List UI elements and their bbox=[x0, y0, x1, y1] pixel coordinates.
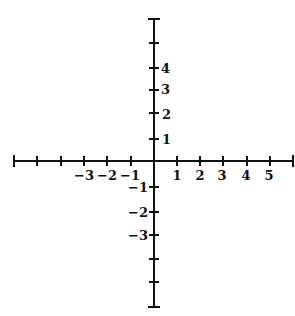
y-label: −1 bbox=[128, 180, 148, 195]
x-label: 3 bbox=[217, 168, 226, 183]
coordinate-plane: −3 −2 −1 1 2 3 4 5 4 3 2 1 −1 −2 −3 bbox=[0, 0, 295, 316]
y-label: 1 bbox=[162, 132, 171, 147]
y-label: −2 bbox=[128, 205, 148, 220]
x-label: 2 bbox=[195, 168, 204, 183]
y-label: 2 bbox=[162, 107, 171, 122]
x-label: 5 bbox=[264, 168, 273, 183]
x-label: −3 bbox=[74, 168, 94, 183]
y-axis-labels: 4 3 2 1 −1 −2 −3 bbox=[128, 61, 171, 243]
y-label: 4 bbox=[161, 61, 170, 76]
x-label: 4 bbox=[241, 168, 250, 183]
x-label: 1 bbox=[172, 168, 181, 183]
x-axis-labels: −3 −2 −1 1 2 3 4 5 bbox=[74, 168, 274, 183]
x-label: −2 bbox=[97, 168, 117, 183]
y-label: −3 bbox=[128, 228, 148, 243]
y-label: 3 bbox=[161, 82, 170, 97]
